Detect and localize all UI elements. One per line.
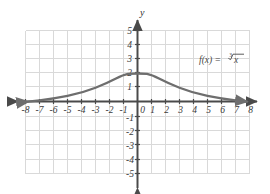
x-tick-label: 5 (206, 105, 211, 115)
function-label-fx: f(x) = (199, 55, 221, 66)
y-tick-label: -3 (126, 141, 134, 151)
x-tick-label: 8 (248, 105, 253, 115)
y-tick-label: -2 (126, 127, 134, 137)
radicand-x: x (233, 55, 239, 65)
y-tick-label: 1 (127, 82, 132, 92)
x-tick-label: 0 (140, 105, 145, 115)
x-tick-label: -7 (36, 105, 45, 115)
x-tick-label: -5 (64, 105, 72, 115)
x-tick-label: -8 (22, 105, 30, 115)
y-tick-label: -4 (126, 155, 134, 165)
x-tick-label: 7 (234, 105, 240, 115)
x-tick-label: -2 (106, 105, 114, 115)
cube-root-graph-figure: -8 -7 -6 -5 -4 -3 -2 -1 0 1 2 3 4 5 6 7 … (0, 0, 270, 194)
y-tick-label: 3 (126, 54, 132, 64)
x-tick-label: 3 (177, 105, 183, 115)
graph-canvas: -8 -7 -6 -5 -4 -3 -2 -1 0 1 2 3 4 5 6 7 … (0, 0, 270, 194)
y-tick-label: -1 (126, 113, 134, 123)
y-tick-label: 4 (127, 40, 132, 50)
x-tick-label: 6 (220, 105, 225, 115)
y-tick-label: -5 (126, 169, 134, 179)
x-tick-label: 2 (164, 105, 169, 115)
x-tick-label: -3 (92, 105, 100, 115)
x-tick-label: -6 (50, 105, 58, 115)
x-tick-label: 1 (150, 105, 155, 115)
x-tick-label: -4 (78, 105, 86, 115)
x-tick-label: 4 (192, 105, 197, 115)
y-axis-label: y (139, 7, 145, 18)
y-tick-label: 5 (127, 26, 132, 36)
